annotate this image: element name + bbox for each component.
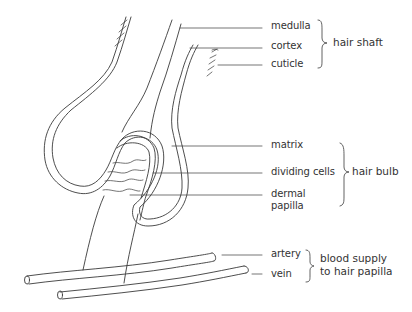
label-artery: artery [271,248,301,260]
label-medulla: medulla [271,20,311,32]
artery-vessel [25,253,216,284]
label-dermal-papilla-2: papilla [271,200,304,212]
hair-bulb-inner [117,136,155,220]
label-dividing-cells: dividing cells [271,166,335,178]
label-dermal-papilla-1: dermal [271,188,305,200]
label-cuticle: cuticle [271,58,303,70]
group-label-blood-supply-2: to hair papilla [320,265,393,278]
brace-blood-supply [306,250,314,282]
brace-hair-bulb [340,143,349,206]
leader-lines [130,28,262,274]
hair-follicle-diagram: medulla cortex cuticle hair shaft matrix… [0,0,412,312]
hair-shaft [122,20,181,138]
group-label-blood-supply-1: blood supply [320,252,387,265]
group-label-hair-shaft: hair shaft [333,36,383,49]
dividing-cells [103,160,146,192]
label-matrix: matrix [271,139,303,151]
brace-hair-shaft [318,20,327,68]
braces [306,20,349,282]
group-label-hair-bulb: hair bulb [352,165,399,178]
label-vein: vein [271,268,292,280]
dermal-papilla-stalk [83,196,138,283]
cuticle-hatching-right [207,49,218,76]
label-cortex: cortex [271,40,302,52]
